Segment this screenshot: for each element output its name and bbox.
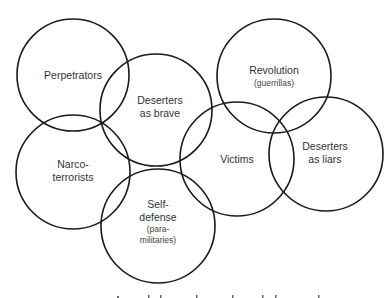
label-narco-line2: terrorists: [53, 171, 94, 183]
label-deserters-liars-line1: Deserters: [302, 140, 348, 152]
label-revolution: Revolution: [249, 64, 299, 76]
label-victims: Victims: [220, 153, 254, 165]
label-perpetrators: Perpetrators: [44, 69, 102, 81]
label-self-defense-sub1: (para-: [147, 224, 170, 234]
label-deserters-liars-line2: as liars: [308, 153, 341, 165]
label-self-defense-sub2: militaries): [140, 235, 177, 245]
label-revolution-sub: (guerrillas): [254, 78, 294, 88]
label-deserters-brave-line2: as brave: [140, 107, 180, 119]
venn-diagram: Perpetrators Deserters as brave Narco- t…: [0, 0, 392, 298]
label-self-defense-line2: defense: [139, 211, 177, 223]
label-deserters-brave-line1: Deserters: [137, 94, 183, 106]
label-self-defense-line1: Self-: [147, 198, 169, 210]
label-narco-line1: Narco-: [57, 158, 89, 170]
